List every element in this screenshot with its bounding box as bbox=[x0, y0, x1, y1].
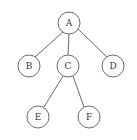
nodes: A B C D E F bbox=[18, 12, 124, 128]
node-f-label: F bbox=[86, 112, 92, 122]
node-f: F bbox=[78, 106, 100, 128]
node-c: C bbox=[57, 55, 79, 77]
node-c-label: C bbox=[65, 61, 72, 71]
node-a-label: A bbox=[65, 18, 73, 28]
node-e: E bbox=[27, 106, 49, 128]
edge-a-c bbox=[68, 34, 69, 55]
node-d-label: D bbox=[109, 61, 116, 71]
edge-a-d bbox=[78, 29, 107, 57]
edge-c-f bbox=[73, 76, 84, 107]
node-a: A bbox=[58, 12, 80, 34]
node-e-label: E bbox=[35, 112, 42, 122]
node-d: D bbox=[102, 55, 124, 77]
node-b: B bbox=[18, 55, 40, 77]
tree-diagram: A B C D E F bbox=[0, 0, 137, 140]
edge-a-b bbox=[35, 32, 63, 57]
node-b-label: B bbox=[26, 61, 33, 71]
edge-c-e bbox=[44, 76, 63, 107]
